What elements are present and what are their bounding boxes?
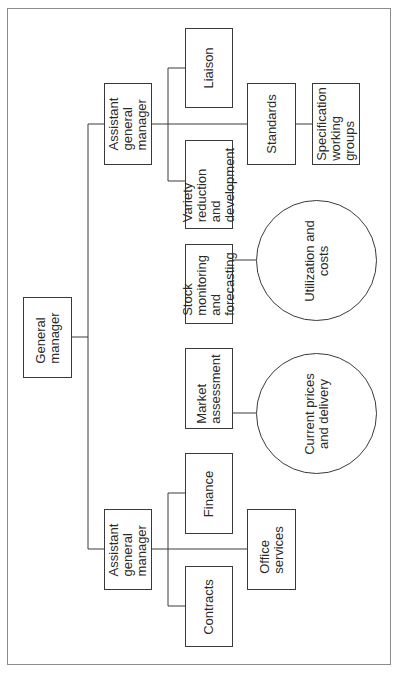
specification-groups-label: Specification working groups xyxy=(315,87,357,161)
variety-reduction-label: Variety reduction and development xyxy=(181,147,237,221)
node-stock-monitoring: Stock monitoring and forecasting xyxy=(185,244,233,324)
standards-label: Standards xyxy=(265,94,279,153)
office-services-label: Office services xyxy=(258,526,286,574)
assistant-gm-bottom-label: Assistant general manager xyxy=(107,523,149,576)
node-utilization-costs: Utilization and costs xyxy=(256,200,377,321)
node-finance: Finance xyxy=(185,453,233,534)
node-current-prices: Current prices and delivery xyxy=(256,353,377,474)
stock-monitoring-label: Stock monitoring and forecasting xyxy=(181,252,237,316)
node-general-manager: General manager xyxy=(23,297,72,378)
node-variety-reduction: Variety reduction and development xyxy=(185,140,233,229)
assistant-gm-top-label: Assistant general manager xyxy=(107,98,149,151)
node-contracts: Contracts xyxy=(185,566,233,647)
node-market-assessment: Market assessment xyxy=(185,348,233,429)
liaison-label: Liaison xyxy=(202,47,216,88)
general-manager-label: General manager xyxy=(34,312,62,363)
node-assistant-gm-top: Assistant general manager xyxy=(104,83,152,165)
finance-label: Finance xyxy=(202,470,216,516)
node-liaison: Liaison xyxy=(185,28,233,108)
node-specification-groups: Specification working groups xyxy=(312,83,360,165)
node-standards: Standards xyxy=(247,83,296,165)
current-prices-label: Current prices and delivery xyxy=(302,373,330,455)
node-office-services: Office services xyxy=(247,509,296,590)
node-assistant-gm-bottom: Assistant general manager xyxy=(104,509,152,590)
market-assessment-label: Market assessment xyxy=(195,354,223,423)
contracts-label: Contracts xyxy=(202,579,216,635)
utilization-costs-label: Utilization and costs xyxy=(303,220,331,302)
